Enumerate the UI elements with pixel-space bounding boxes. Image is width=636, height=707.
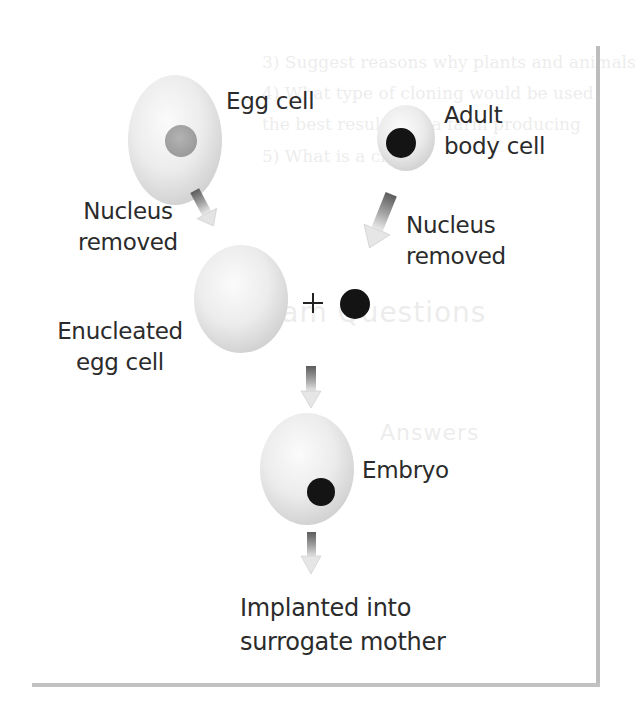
arrow-down-left-icon <box>357 189 405 253</box>
adult-nucleus <box>386 128 416 158</box>
label-nucleus-removed-right: Nucleus removed <box>406 210 506 272</box>
label-text: egg cell <box>52 347 188 378</box>
embryo-nucleus <box>307 478 335 506</box>
label-text: Egg cell <box>226 86 314 117</box>
label-text: removed <box>73 227 183 258</box>
arrow-down-icon <box>301 366 321 408</box>
donor-nucleus <box>340 289 370 319</box>
egg-cell <box>128 75 222 205</box>
label-enucleated-egg-cell: Enucleated egg cell <box>52 316 188 378</box>
arrow-down-icon <box>301 532 321 574</box>
frame-border-bottom <box>32 683 600 687</box>
egg-nucleus <box>165 125 197 157</box>
label-text: Embryo <box>362 455 449 486</box>
label-text: surrogate mother <box>240 625 445 659</box>
label-text: Implanted into <box>240 591 445 625</box>
embryo-cell <box>260 413 354 525</box>
label-text: Nucleus <box>73 196 183 227</box>
frame-border-right <box>596 46 600 686</box>
adult-body-cell <box>377 105 435 171</box>
label-egg-cell: Egg cell <box>226 86 314 117</box>
label-text: removed <box>406 241 506 272</box>
label-text: Adult <box>444 100 545 131</box>
enucleated-egg-cell <box>194 245 288 353</box>
label-adult-body-cell: Adult body cell <box>444 100 545 162</box>
label-text: Nucleus <box>406 210 506 241</box>
label-implanted-surrogate: Implanted into surrogate mother <box>240 591 445 659</box>
label-embryo: Embryo <box>362 455 449 486</box>
plus-icon <box>303 293 323 313</box>
label-text: Enucleated <box>52 316 188 347</box>
label-text: body cell <box>444 131 545 162</box>
label-nucleus-removed-left: Nucleus removed <box>73 196 183 258</box>
